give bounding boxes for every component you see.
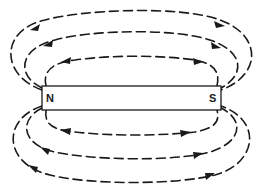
field-line-bottom-outer [13,106,249,183]
field-line-top-middle [25,32,238,88]
field-line-bottom-middle [27,108,237,159]
arrow-icon [40,147,50,155]
bar-magnet-field-diagram [0,0,261,193]
arrow-icon [205,173,215,180]
arrow-icon [28,165,38,173]
south-pole-label: S [209,93,216,104]
bar-magnet [42,86,221,110]
arrow-icon [193,152,203,159]
arrow-icon [180,130,191,137]
north-pole-label: N [46,93,54,104]
field-line-top-inner [45,56,218,86]
arrow-icon [193,58,203,65]
arrow-icon [60,128,71,135]
field-line-bottom-inner [46,110,218,135]
